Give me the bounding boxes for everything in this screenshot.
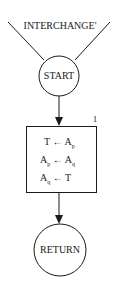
process-line-3: Aq ← T	[40, 172, 71, 185]
entry-label: INTERCHANGE'	[20, 20, 100, 31]
arrowhead-icon	[55, 117, 63, 126]
process-line-2: Ap ← Aq	[40, 154, 75, 167]
process-number: 1	[91, 114, 99, 124]
start-label: START	[39, 70, 79, 81]
process-line-1: T ← Ap	[44, 136, 75, 149]
return-label: RETURN	[34, 244, 86, 255]
arrowhead-icon	[55, 215, 63, 224]
